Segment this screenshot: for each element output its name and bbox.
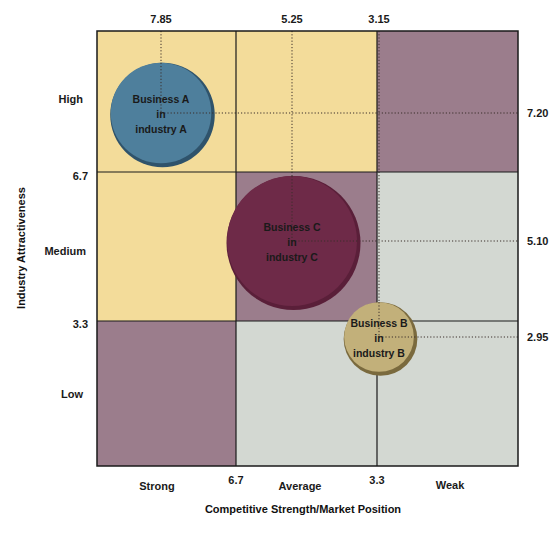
bubble-x-label-a: 7.85 [150, 13, 171, 25]
x-boundary-label-6-7: 6.7 [228, 474, 243, 486]
y-boundary-label-6-7: 6.7 [73, 170, 88, 182]
x-boundary-label-3-3: 3.3 [369, 474, 384, 486]
bubble-x-label-c: 5.25 [281, 13, 302, 25]
bubble-label-line: in [374, 332, 383, 344]
cell-low-strong [97, 321, 236, 466]
y-category-medium: Medium [44, 245, 86, 257]
bubble-y-label-c: 5.10 [527, 235, 548, 247]
ge-mckinsey-matrix-chart: Business Ainindustry ABusiness Cinindust… [0, 0, 557, 535]
bubble-label-line: Business A [133, 93, 190, 105]
y-boundary-label-3-3: 3.3 [73, 318, 88, 330]
x-category-strong: Strong [139, 480, 174, 492]
bubble-y-label-b: 2.95 [527, 331, 548, 343]
bubble-label-line: industry C [266, 251, 318, 263]
bubble-x-label-b: 3.15 [368, 13, 389, 25]
cell-high-average [236, 31, 377, 172]
bubble-label-line: in [287, 236, 296, 248]
bubble-label-line: industry A [135, 123, 187, 135]
bubble-label-line: in [156, 108, 165, 120]
bubble-label-line: industry B [353, 347, 405, 359]
y-axis-title: Industry Attractiveness [15, 187, 27, 309]
x-category-weak: Weak [436, 479, 465, 491]
bubble-b: Business Binindustry B [344, 302, 418, 376]
bubble-y-label-a: 7.20 [527, 107, 548, 119]
bubble-label-line: Business B [350, 317, 408, 329]
x-axis-title: Competitive Strength/Market Position [205, 503, 401, 515]
bubble-c: Business Cinindustry C [227, 176, 361, 310]
cell-medium-strong [97, 172, 236, 321]
x-category-average: Average [278, 480, 321, 492]
cell-high-weak [377, 31, 518, 172]
cell-medium-weak [377, 172, 518, 321]
y-category-high: High [59, 93, 84, 105]
bubble-a: Business Ainindustry A [110, 63, 215, 168]
y-category-low: Low [61, 388, 83, 400]
bubble-label-line: Business C [263, 221, 321, 233]
